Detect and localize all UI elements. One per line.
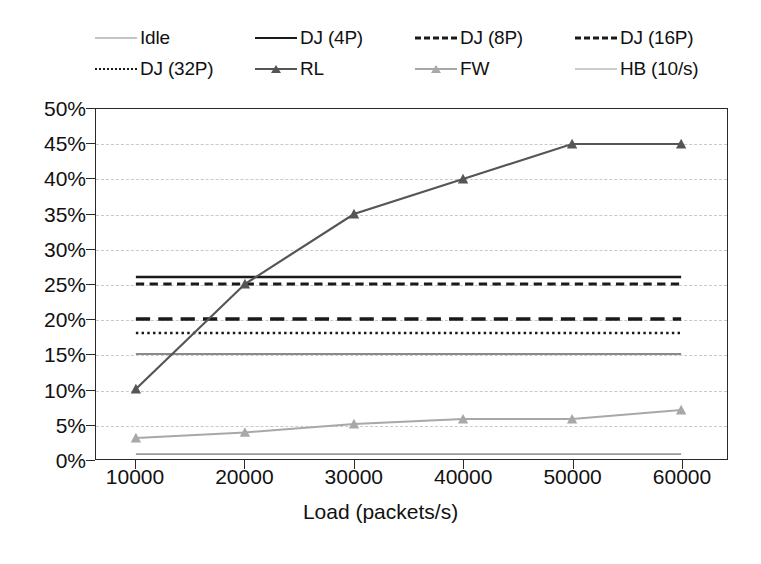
legend-label: DJ (32P)	[140, 59, 213, 78]
legend-swatch-icon	[95, 31, 137, 45]
y-axis-tick	[86, 143, 95, 144]
y-axis: 0%5%10%15%20%25%30%35%40%45%50%	[0, 108, 86, 460]
x-axis-tick-label: 30000	[325, 466, 383, 487]
y-axis-tick-label: 45%	[44, 133, 86, 154]
y-axis-tick	[86, 319, 95, 320]
legend-item-dj-4p[interactable]: DJ (4P)	[255, 22, 415, 53]
y-axis-tick-label: 10%	[44, 379, 86, 400]
x-axis-title: Load (packets/s)	[0, 500, 761, 524]
legend-label: RL	[300, 59, 324, 78]
y-axis-tick	[86, 425, 95, 426]
legend-item-rl[interactable]: RL	[255, 53, 415, 84]
legend-item-idle[interactable]: Idle	[95, 22, 255, 53]
y-axis-tick-label: 0%	[56, 450, 86, 471]
y-axis-tick-label: 40%	[44, 168, 86, 189]
legend-triangle-marker-icon	[271, 65, 281, 73]
y-axis-tick-label: 20%	[44, 309, 86, 330]
y-axis-tick-label: 5%	[56, 414, 86, 435]
x-axis-tick-label: 10000	[106, 466, 164, 487]
legend-swatch-icon	[575, 62, 617, 76]
y-axis-tick	[86, 249, 95, 250]
chart-container: IdleDJ (4P)DJ (8P)DJ (16P)DJ (32P)RLFWHB…	[0, 0, 761, 564]
x-axis-labels: 100002000030000400005000060000	[95, 466, 728, 496]
legend-swatch-icon	[415, 62, 457, 76]
x-axis-tick-label: 40000	[434, 466, 492, 487]
series-fw	[131, 405, 687, 443]
legend-label: DJ (16P)	[620, 28, 693, 47]
legend-label: DJ (4P)	[300, 28, 363, 47]
x-axis-tick-label: 60000	[653, 466, 711, 487]
legend-item-dj-8p[interactable]: DJ (8P)	[415, 22, 575, 53]
legend-label: HB (10/s)	[620, 59, 698, 78]
y-axis-tick-label: 35%	[44, 203, 86, 224]
y-axis-tick	[86, 460, 95, 461]
legend-triangle-marker-icon	[431, 65, 441, 73]
legend-item-dj-32p[interactable]: DJ (32P)	[95, 53, 255, 84]
legend-row: DJ (32P)RLFWHB (10/s)	[95, 53, 735, 84]
series-layer	[96, 109, 727, 459]
y-axis-tick-label: 50%	[44, 98, 86, 119]
y-axis-tick	[86, 390, 95, 391]
legend-row: IdleDJ (4P)DJ (8P)DJ (16P)	[95, 22, 735, 53]
legend-swatch-icon	[255, 62, 297, 76]
legend-item-dj-16p[interactable]: DJ (16P)	[575, 22, 735, 53]
y-axis-tick	[86, 108, 95, 109]
y-axis-tick	[86, 214, 95, 215]
x-axis-tick-label: 20000	[215, 466, 273, 487]
legend-item-fw[interactable]: FW	[415, 53, 575, 84]
legend-swatch-icon	[95, 62, 137, 76]
plot-area	[95, 108, 728, 460]
y-axis-tick	[86, 354, 95, 355]
y-axis-tick	[86, 284, 95, 285]
legend-label: Idle	[140, 28, 170, 47]
y-axis-tick-label: 15%	[44, 344, 86, 365]
chart-legend: IdleDJ (4P)DJ (8P)DJ (16P)DJ (32P)RLFWHB…	[95, 22, 735, 84]
y-axis-tick	[86, 178, 95, 179]
legend-label: FW	[460, 59, 489, 78]
legend-item-hb-10-s[interactable]: HB (10/s)	[575, 53, 735, 84]
legend-swatch-icon	[415, 31, 457, 45]
series-rl	[131, 139, 687, 394]
y-axis-tick-label: 30%	[44, 238, 86, 259]
y-axis-tick-label: 25%	[44, 274, 86, 295]
x-axis-tick-label: 50000	[543, 466, 601, 487]
legend-swatch-icon	[255, 31, 297, 45]
legend-label: DJ (8P)	[460, 28, 523, 47]
legend-swatch-icon	[575, 31, 617, 45]
